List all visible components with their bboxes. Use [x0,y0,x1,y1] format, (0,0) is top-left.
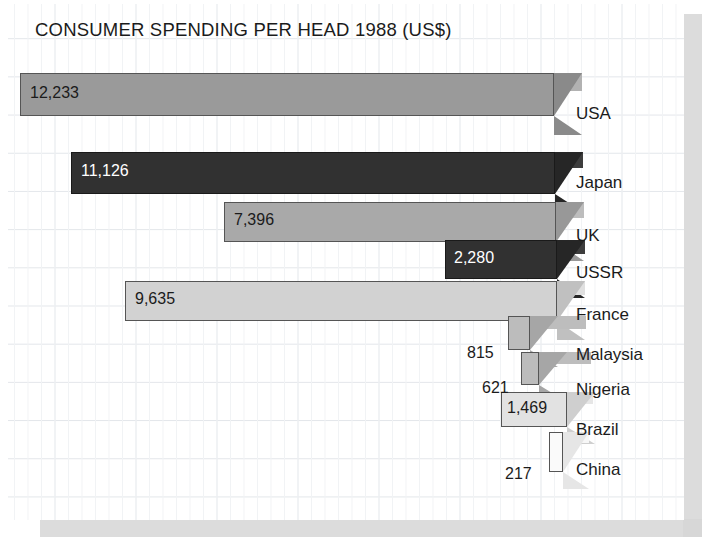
category-label-brazil: Brazil [576,420,619,440]
category-label-usa: USA [576,104,611,124]
page-drop-shadow-right [683,14,702,537]
bar-ussr-value: 2,280 [454,249,494,267]
category-labels: USA Japan UK USSR France Malaysia Nigeri… [8,4,684,520]
bar-brazil-value: 1,469 [507,399,547,417]
category-label-china: China [576,460,620,480]
chart-page: CONSUMER SPENDING PER HEAD 1988 (US$) 12… [0,0,705,551]
category-label-ussr: USSR [576,263,623,283]
chart-card: CONSUMER SPENDING PER HEAD 1988 (US$) 12… [8,4,684,520]
bar-france-value: 9,635 [135,290,175,308]
bar-malaysia-value: 815 [467,344,494,362]
page-drop-shadow-bottom [40,519,702,537]
category-label-nigeria: Nigeria [576,380,630,400]
category-label-france: France [576,305,629,325]
category-label-malaysia: Malaysia [576,345,643,365]
bar-usa-value: 12,233 [30,84,79,102]
bar-china-value: 217 [505,465,532,483]
bar-nigeria-value: 621 [482,379,509,397]
category-label-uk: UK [576,226,600,246]
bar-uk-value: 7,396 [234,211,274,229]
category-label-japan: Japan [576,173,622,193]
bar-japan-value: 11,126 [81,162,129,180]
